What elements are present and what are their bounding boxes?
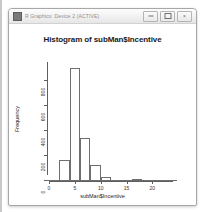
histogram-bars <box>47 60 177 181</box>
x-axis-tick <box>101 181 102 184</box>
minimize-button[interactable] <box>143 11 158 22</box>
window-title: R Graphics: Device 2 (ACTIVE) <box>25 13 143 19</box>
x-axis-line <box>49 181 173 182</box>
y-axis-tick-label: 0 <box>40 180 46 204</box>
r-graphics-window[interactable]: R Graphics: Device 2 (ACTIVE) × Histogra… <box>8 8 197 206</box>
x-axis-tick <box>75 181 76 184</box>
y-axis-tick-label: 800 <box>40 80 46 104</box>
window-controls[interactable]: × <box>143 11 192 22</box>
maximize-icon <box>164 13 171 19</box>
maximize-button[interactable] <box>160 11 175 22</box>
x-axis-label: subMan$Incentive <box>9 193 196 199</box>
plot-canvas: Histogram of subMan$Incentive Frequency … <box>9 24 196 204</box>
plot-area: 0200400600800 05101520 <box>47 60 177 181</box>
x-axis-tick <box>49 181 50 184</box>
desktop-background: R Graphics: Device 2 (ACTIVE) × Histogra… <box>0 0 202 212</box>
window-titlebar[interactable]: R Graphics: Device 2 (ACTIVE) × <box>9 9 196 24</box>
x-axis-tick <box>127 181 128 184</box>
histogram-bar <box>80 138 90 181</box>
close-button[interactable]: × <box>177 11 192 22</box>
y-axis-tick-label: 600 <box>40 105 46 129</box>
y-axis-tick-label: 200 <box>40 155 46 179</box>
histogram-bar <box>90 165 100 181</box>
chart-title: Histogram of subMan$Incentive <box>9 35 196 44</box>
minimize-icon <box>148 16 153 17</box>
x-axis-tick-label: 5 <box>73 185 76 191</box>
y-axis-line <box>47 62 48 175</box>
r-app-icon <box>13 12 22 21</box>
x-axis-tick-label: 0 <box>48 185 51 191</box>
histogram-bar <box>59 160 69 181</box>
y-axis-label: Frequency <box>14 106 20 132</box>
x-axis-tick <box>152 181 153 184</box>
x-axis-tick-label: 15 <box>124 185 130 191</box>
close-icon: × <box>183 14 186 19</box>
desktop-left-edge <box>0 0 2 212</box>
x-axis-tick-label: 10 <box>98 185 104 191</box>
histogram-bar <box>70 68 80 181</box>
x-axis-tick-label: 20 <box>150 185 156 191</box>
y-axis-tick-label: 400 <box>40 130 46 154</box>
